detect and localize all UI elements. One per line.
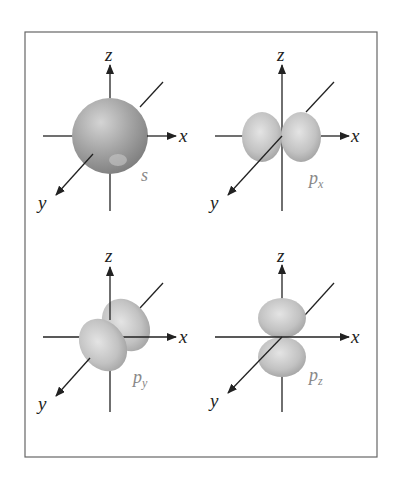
z-axis-label: z (276, 245, 285, 266)
y-axis-label: y (36, 192, 47, 213)
pz-lobe-negative (258, 337, 306, 377)
z-axis-label: z (104, 44, 113, 65)
x-axis-label: x (350, 326, 360, 347)
z-axis-label: z (104, 245, 113, 266)
sphere-highlight (109, 154, 127, 166)
y-axis-label: y (36, 393, 47, 414)
px-lobe-negative (242, 112, 282, 162)
px-lobe-positive (281, 112, 321, 162)
y-axis-label: y (208, 390, 219, 411)
x-axis-label: x (178, 326, 188, 347)
figure-frame (25, 32, 377, 457)
x-axis-label: x (178, 125, 188, 146)
orbital-label-s: s (141, 165, 148, 185)
pz-lobe-positive (258, 298, 306, 338)
orbitals-figure: z x y s z x y px z x y py (0, 0, 399, 486)
z-axis-label: z (276, 44, 285, 65)
x-axis-label: x (350, 125, 360, 146)
y-axis-label: y (208, 192, 219, 213)
